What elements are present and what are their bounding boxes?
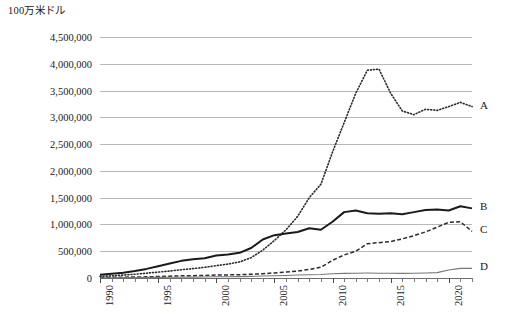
x-axis-ticks: 1990199520002005201020152020 (0, 278, 516, 324)
x-axis-tick-label: 2020 (453, 285, 464, 306)
x-axis-tick-label: 2000 (220, 285, 231, 306)
x-axis-tick-mark (100, 278, 101, 283)
x-axis-tick-mark (321, 278, 322, 282)
x-axis-tick-mark (240, 278, 241, 282)
series-label-b: B (480, 200, 487, 212)
x-axis-tick-mark (181, 278, 182, 282)
y-axis-tick-label: 500,000 (0, 246, 92, 257)
x-axis-tick-mark (205, 278, 206, 282)
x-axis-tick-mark (426, 278, 427, 282)
y-axis-title: 100万米ドル (8, 2, 65, 17)
x-axis-tick-mark (460, 278, 461, 282)
x-axis-tick-mark (414, 278, 415, 282)
gridline (100, 64, 472, 65)
gridline (100, 198, 472, 199)
x-axis-tick-mark (286, 278, 287, 282)
x-axis-tick-mark (263, 278, 264, 282)
y-axis-tick-label: 1,000,000 (0, 219, 92, 230)
series-label-a: A (480, 99, 488, 111)
y-axis-tick-label: 2,000,000 (0, 165, 92, 176)
x-axis-tick-mark (228, 278, 229, 282)
y-axis-tick-label: 3,500,000 (0, 85, 92, 96)
x-axis-tick-mark (437, 278, 438, 282)
x-axis-tick-mark (216, 278, 217, 283)
x-axis-tick-mark (158, 278, 159, 283)
y-axis-tick-label: 4,500,000 (0, 32, 92, 43)
series-label-d: D (480, 260, 488, 272)
x-axis-tick-label: 1990 (104, 285, 115, 306)
y-axis-tick-label: 2,500,000 (0, 139, 92, 150)
series-label-c: C (480, 223, 487, 235)
x-axis-tick-label: 2010 (337, 285, 348, 306)
x-axis-tick-mark (251, 278, 252, 282)
x-axis-tick-mark (472, 278, 473, 282)
gridline (100, 91, 472, 92)
x-axis-tick-label: 1995 (162, 285, 173, 306)
plot-area (100, 37, 472, 278)
x-axis-tick-mark (333, 278, 334, 283)
x-axis-tick-mark (402, 278, 403, 282)
x-axis-tick-mark (193, 278, 194, 282)
x-axis-tick-mark (170, 278, 171, 282)
gridline (100, 224, 472, 225)
gridline (100, 251, 472, 252)
gridline (100, 171, 472, 172)
gridline (100, 117, 472, 118)
x-axis-tick-mark (298, 278, 299, 282)
footnote-sliver (42, 319, 222, 324)
gridline (100, 144, 472, 145)
x-axis-tick-mark (123, 278, 124, 282)
x-axis-tick-mark (274, 278, 275, 283)
x-axis-tick-mark (367, 278, 368, 282)
y-axis-tick-label: 4,000,000 (0, 58, 92, 69)
x-axis-tick-mark (147, 278, 148, 282)
x-axis-tick-mark (379, 278, 380, 282)
chart-figure: 100万米ドル 4,500,0004,000,0003,500,0003,000… (0, 0, 516, 324)
x-axis-tick-mark (449, 278, 450, 283)
y-axis-tick-label: 3,000,000 (0, 112, 92, 123)
x-axis-tick-label: 2005 (278, 285, 289, 306)
x-axis-tick-label: 2015 (395, 285, 406, 306)
gridline (100, 37, 472, 38)
x-axis-tick-mark (112, 278, 113, 282)
y-axis-tick-label: 1,500,000 (0, 192, 92, 203)
x-axis-tick-mark (135, 278, 136, 282)
x-axis-tick-mark (309, 278, 310, 282)
x-axis-tick-mark (344, 278, 345, 282)
x-axis-tick-mark (356, 278, 357, 282)
x-axis-tick-mark (391, 278, 392, 283)
